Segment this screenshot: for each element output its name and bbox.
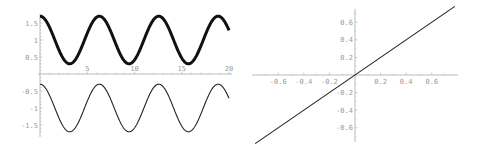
x-tick-label: 0.4 bbox=[400, 78, 413, 86]
right-linear-plot: -0.6-0.4-0.20.20.40.60.60.40.2-0.2-0.4-0… bbox=[252, 6, 458, 143]
lower-sine-curve bbox=[40, 84, 229, 132]
x-tick-label: 0.2 bbox=[374, 78, 387, 86]
x-tick-label: 10 bbox=[130, 65, 138, 73]
upper-sine-curve bbox=[40, 16, 229, 64]
y-tick-label: -0.4 bbox=[336, 107, 353, 115]
y-tick-label: -1.5 bbox=[21, 122, 38, 130]
y-tick-label: 1 bbox=[34, 37, 38, 45]
y-tick-label: 0.4 bbox=[340, 36, 353, 44]
figure: 51015201.510.5-0.5-1-1.5 -0.6-0.4-0.20.2… bbox=[0, 0, 478, 149]
left-sine-plot: 51015201.510.5-0.5-1-1.5 bbox=[21, 14, 233, 137]
y-tick-label: 0.6 bbox=[340, 19, 353, 27]
y-tick-label: -0.6 bbox=[336, 124, 353, 132]
x-tick-label: 15 bbox=[178, 65, 186, 73]
y-tick-label: -1 bbox=[30, 105, 38, 113]
x-tick-label: 5 bbox=[85, 65, 89, 73]
y-tick-label: 1.5 bbox=[25, 20, 38, 28]
y-tick-label: -0.2 bbox=[336, 89, 353, 97]
y-tick-label: 0.2 bbox=[340, 54, 353, 62]
x-tick-label: -0.4 bbox=[295, 78, 312, 86]
x-tick-label: -0.2 bbox=[321, 78, 338, 86]
y-tick-label: 0.5 bbox=[25, 54, 38, 62]
y-tick-label: -0.5 bbox=[21, 88, 38, 96]
x-tick-label: 20 bbox=[225, 65, 233, 73]
x-tick-label: -0.6 bbox=[270, 78, 287, 86]
x-tick-label: 0.6 bbox=[425, 78, 438, 86]
